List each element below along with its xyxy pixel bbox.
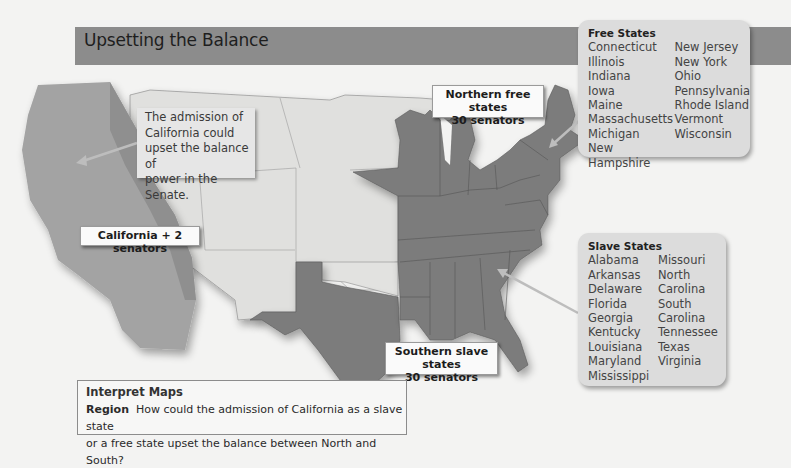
interpret-question: Region How could the admission of Califo… [86, 401, 406, 435]
state-name: New York [674, 55, 750, 69]
question-line: How could the admission of California as… [86, 403, 402, 433]
state-name: Maryland [588, 354, 658, 368]
state-name: Indiana [588, 69, 674, 83]
state-name: Wisconsin [674, 127, 750, 141]
legend-title: Free States [588, 26, 750, 40]
state-name: Pennsylvania [674, 84, 750, 98]
state-name: Massachusetts [588, 112, 674, 126]
state-name: Iowa [588, 84, 674, 98]
interpret-heading: Interpret Maps [86, 384, 406, 401]
state-name: Arkansas [588, 268, 658, 282]
state-name: Georgia [588, 311, 658, 325]
state-name: Texas [658, 340, 718, 354]
california-callout-note: The admission of California could upset … [137, 108, 255, 178]
label-line: Southern slave states [386, 345, 497, 371]
note-line: upset the balance of [145, 141, 255, 172]
state-name: New Jersey [674, 40, 750, 54]
legend-column: Alabama Arkansas Delaware Florida Georgi… [588, 253, 658, 383]
legend-column: Missouri North Carolina South Carolina T… [658, 253, 718, 383]
state-name: New Hampshire [588, 141, 674, 170]
slave-states-legend: Slave States Alabama Arkansas Delaware F… [578, 233, 726, 386]
state-name: Louisiana [588, 340, 658, 354]
question-keyword: Region [86, 403, 129, 416]
state-name: Rhode Island [674, 98, 750, 112]
state-name: Florida [588, 297, 658, 311]
question-line: or a free state upset the balance betwee… [86, 435, 406, 468]
free-states-legend: Free States Connecticut Illinois Indiana… [578, 20, 750, 157]
state-name: Virginia [658, 354, 718, 368]
state-name: Missouri [658, 253, 718, 267]
slave-states-arrow [502, 272, 578, 313]
note-line: California could [145, 126, 255, 142]
legend-column: New Jersey New York Ohio Pennsylvania Rh… [674, 40, 750, 170]
state-name: Michigan [588, 127, 674, 141]
state-name: Carolina [658, 311, 718, 325]
state-name: Alabama [588, 253, 658, 267]
northern-free-states-label: Northern free states 30 senators [432, 85, 544, 118]
note-line: power in the Senate. [145, 172, 255, 203]
state-name: Carolina [658, 282, 718, 296]
state-name: Maine [588, 98, 674, 112]
california-label: California + 2 senators [80, 226, 200, 246]
interpret-maps-box: Interpret Maps Region How could the admi… [77, 380, 407, 435]
state-name: Kentucky [588, 325, 658, 339]
state-name: Mississippi [588, 369, 658, 383]
state-name: Illinois [588, 55, 674, 69]
state-name: Delaware [588, 282, 658, 296]
southern-slave-states-label: Southern slave states 30 senators [385, 342, 498, 375]
state-name: Ohio [674, 69, 750, 83]
legend-column: Connecticut Illinois Indiana Iowa Maine … [588, 40, 674, 170]
label-line: 30 senators [433, 114, 543, 127]
state-name: South [658, 297, 718, 311]
note-line: The admission of [145, 110, 255, 126]
state-name: North [658, 268, 718, 282]
label-line: Northern free states [433, 88, 543, 114]
state-name: Tennessee [658, 325, 718, 339]
legend-title: Slave States [588, 239, 726, 253]
state-name: Connecticut [588, 40, 674, 54]
state-name: Vermont [674, 112, 750, 126]
